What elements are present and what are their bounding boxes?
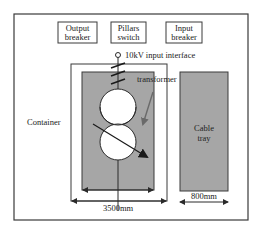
input-breaker-box: Input breaker: [166, 22, 202, 43]
input-breaker-label-line2: breaker: [171, 32, 197, 42]
cable-tray-label-line2: tray: [197, 133, 211, 143]
container-layout-diagram: Output breaker Pillars switch Input brea…: [0, 0, 262, 231]
input-interface-label: 10kV input interface: [125, 50, 195, 60]
pillars-switch-box: Pillars switch: [111, 22, 146, 43]
pillars-switch-label-line2: switch: [117, 32, 140, 42]
output-breaker-label-line2: breaker: [65, 32, 91, 42]
output-breaker-box: Output breaker: [58, 22, 97, 43]
cable-tray-label-line1: Cable: [194, 123, 214, 133]
container-label: Container: [27, 117, 61, 127]
cable-tray-width-label: 800mm: [191, 191, 217, 201]
transformer-label: transformer: [137, 74, 177, 84]
input-terminal-icon: [116, 53, 121, 58]
transformer-secondary-winding-icon: [100, 124, 136, 160]
container-width-label: 3500mm: [103, 203, 134, 213]
